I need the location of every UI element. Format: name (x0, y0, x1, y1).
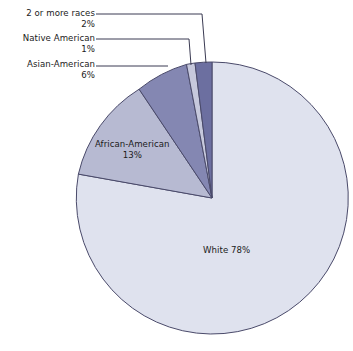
pie-label-native-american-value: 1% (23, 44, 95, 55)
pie-label-asian-american-value: 6% (27, 70, 95, 81)
pie-chart: 2 or more races 2% Native American 1% As… (0, 0, 353, 351)
pie-label-white: White 78% (203, 245, 250, 256)
pie-label-asian-american: Asian-American 6% (27, 59, 95, 82)
pie-label-asian-american-name: Asian-American (27, 59, 95, 70)
pie-label-native-american-name: Native American (23, 33, 95, 44)
pie-label-african-american-name: African-American (95, 139, 170, 150)
leader-line-native-american (96, 39, 191, 65)
pie-label-african-american-value: 13% (95, 150, 170, 161)
pie-label-african-american: African-American 13% (95, 139, 170, 162)
pie-label-two-or-more-races: 2 or more races 2% (26, 8, 95, 31)
pie-label-native-american: Native American 1% (23, 33, 95, 56)
pie-label-white-text: White 78% (203, 245, 250, 256)
pie-label-two-or-more-races-value: 2% (26, 19, 95, 30)
pie-label-two-or-more-races-name: 2 or more races (26, 8, 95, 19)
